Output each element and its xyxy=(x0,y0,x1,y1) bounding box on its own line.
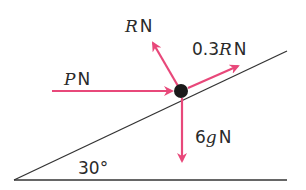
free-body-diagram: PN RN 0.3RN 6gN 30° xyxy=(0,0,306,190)
label-angle: 30° xyxy=(78,158,108,178)
label-weight: 6gN xyxy=(195,127,231,147)
label-friction: 0.3RN xyxy=(192,39,247,59)
incline-line xyxy=(14,51,287,180)
force-R-arrow xyxy=(153,43,178,86)
diagram-canvas: PN RN 0.3RN 6gN 30° xyxy=(0,0,306,190)
label-R: RN xyxy=(124,16,153,36)
label-P: PN xyxy=(63,69,90,89)
particle xyxy=(174,84,188,98)
